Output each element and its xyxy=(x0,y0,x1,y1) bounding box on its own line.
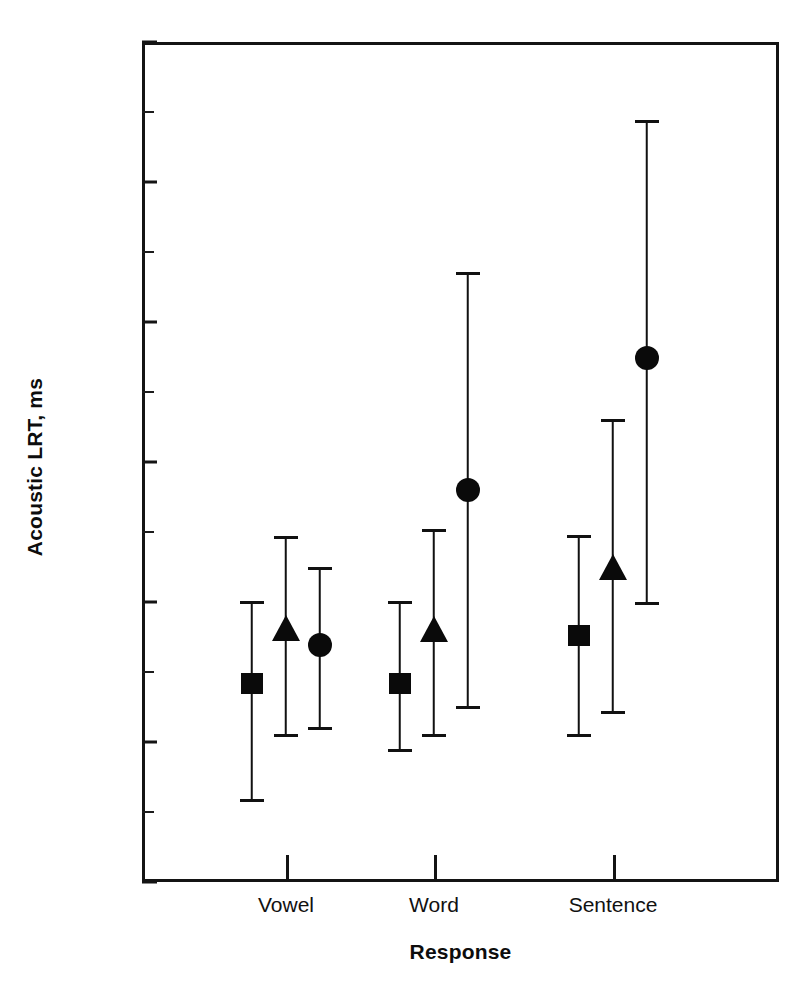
y-axis-title: Acoustic LRT, ms xyxy=(23,257,47,677)
y-tick-minor xyxy=(142,251,154,253)
error-bar-cap xyxy=(567,734,591,737)
y-tick-mark xyxy=(142,181,157,184)
error-bar-cap xyxy=(635,120,659,123)
data-point-triangle xyxy=(272,615,300,641)
y-tick-mark xyxy=(142,881,157,884)
data-point-circle xyxy=(456,478,480,502)
y-tick-mark xyxy=(142,741,157,744)
error-bar-cap xyxy=(308,567,332,570)
error-bar-line xyxy=(251,601,253,800)
x-tick-label: Word xyxy=(334,893,534,917)
y-tick-mark xyxy=(142,601,157,604)
error-bar-cap xyxy=(274,734,298,737)
y-tick-minor xyxy=(142,111,154,113)
chart-figure: Acoustic LRT, ms 200300400500600700800 V… xyxy=(0,0,806,984)
error-bar-cap xyxy=(456,272,480,275)
error-bar-cap xyxy=(240,799,264,802)
y-tick-mark xyxy=(142,321,157,324)
y-tick-minor xyxy=(142,811,154,813)
plot-area xyxy=(142,42,779,882)
x-tick-label: Sentence xyxy=(513,893,713,917)
x-axis-title: Response xyxy=(142,940,779,964)
error-bar-cap xyxy=(601,711,625,714)
data-point-square xyxy=(568,625,590,646)
error-bar-cap xyxy=(635,602,659,605)
error-bar-cap xyxy=(422,529,446,532)
error-bar-cap xyxy=(601,419,625,422)
y-tick-minor xyxy=(142,391,154,393)
error-bar-cap xyxy=(308,727,332,730)
error-bar-cap xyxy=(274,536,298,539)
error-bar-cap xyxy=(567,535,591,538)
data-point-square xyxy=(241,673,263,694)
data-point-square xyxy=(389,673,411,694)
x-tick-mark xyxy=(286,855,289,882)
x-tick-mark xyxy=(613,855,616,882)
x-tick-mark xyxy=(434,855,437,882)
error-bar-cap xyxy=(388,749,412,752)
error-bar-cap xyxy=(388,601,412,604)
y-tick-minor xyxy=(142,531,154,533)
y-tick-minor xyxy=(142,671,154,673)
error-bar-cap xyxy=(422,734,446,737)
error-bar-cap xyxy=(240,601,264,604)
error-bar-cap xyxy=(456,706,480,709)
data-point-triangle xyxy=(420,616,448,642)
y-tick-mark xyxy=(142,461,157,464)
data-point-triangle xyxy=(599,554,627,580)
y-tick-mark xyxy=(142,41,157,44)
